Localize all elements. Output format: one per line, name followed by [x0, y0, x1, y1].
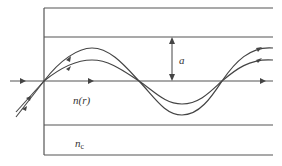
arrow-down-icon	[169, 74, 175, 81]
core-index-label: n(r)	[73, 95, 90, 106]
core-radius-label: a	[179, 55, 185, 66]
cladding-index-label: nc	[75, 138, 84, 151]
fiber-diagram	[0, 0, 282, 166]
axial-ray-arrow-icon	[88, 78, 94, 84]
axial-ray-arrow-icon	[260, 78, 266, 84]
cladding-index-subscript: c	[81, 142, 85, 151]
ray-direction-arrow-icon	[256, 47, 262, 52]
axial-ray-arrow-icon	[20, 78, 26, 84]
arrow-up-icon	[169, 37, 175, 44]
